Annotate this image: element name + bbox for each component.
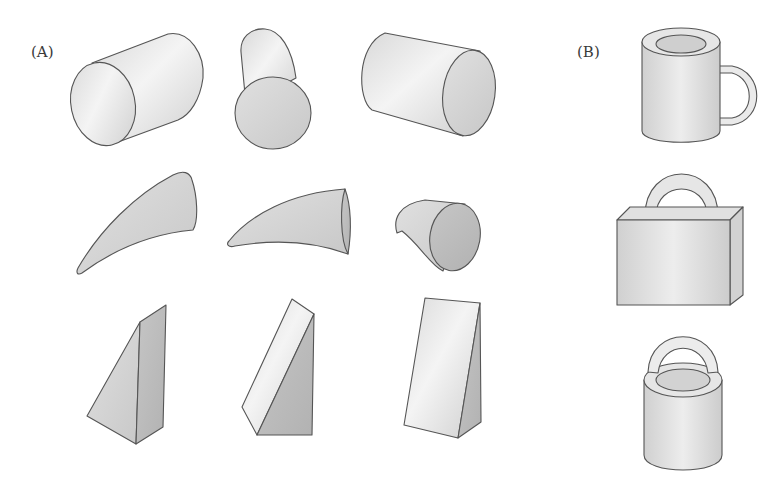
briefcase <box>617 174 743 305</box>
wedge-center-view <box>242 299 314 435</box>
cylinder-left-face <box>63 34 203 152</box>
mug <box>642 28 757 142</box>
figure-canvas <box>0 0 777 493</box>
horn-short-curled <box>396 199 486 275</box>
cylinder-front-face <box>235 29 311 149</box>
horn-horizontal <box>228 189 351 254</box>
wedge-right-view <box>404 298 481 438</box>
horn-tilted-up <box>77 172 197 274</box>
cylinder-right-face <box>362 33 501 139</box>
wedge-left-view <box>87 305 166 444</box>
bucket <box>644 337 722 470</box>
